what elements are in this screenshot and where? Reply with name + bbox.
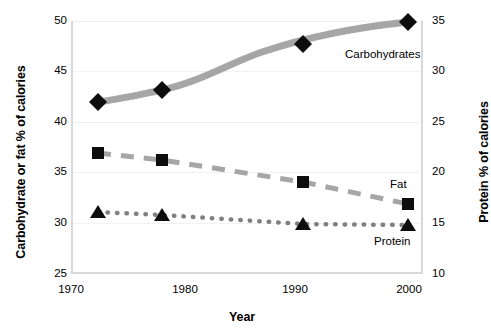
marker-fat-1973 <box>92 147 104 159</box>
marker-carbohydrates-1978 <box>153 81 171 99</box>
series-label-carbohydrates: Carbohydrates <box>345 48 420 60</box>
marker-fat-1978 <box>156 154 168 166</box>
marker-carbohydrates-1973 <box>89 93 107 111</box>
marker-protein-1973 <box>90 205 106 218</box>
series-label-protein: Protein <box>374 235 410 247</box>
series-line-fat <box>98 153 408 204</box>
markers-fat <box>92 147 414 210</box>
marker-fat-1991 <box>297 176 309 188</box>
series-line-protein <box>98 212 408 225</box>
markers-protein <box>90 205 416 231</box>
y-axis-left-title: Carbohydrate or fat % of calories <box>14 37 28 287</box>
y-axis-right-title: Protein % of calories <box>477 37 491 287</box>
series-label-fat: Fat <box>390 178 407 190</box>
marker-fat-1999 <box>402 198 414 210</box>
marker-carbohydrates-1999 <box>399 13 417 31</box>
x-axis-title: Year <box>0 310 484 324</box>
series-line-carbohydrates <box>98 22 408 102</box>
